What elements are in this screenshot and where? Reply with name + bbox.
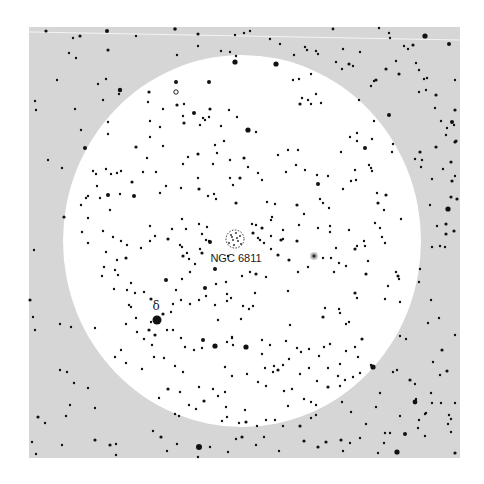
star-icon — [252, 305, 254, 307]
star-icon — [333, 271, 335, 273]
star-icon — [229, 177, 231, 179]
star-icon — [87, 242, 89, 244]
star-icon — [214, 144, 216, 146]
star-icon — [359, 437, 361, 439]
star-icon — [364, 245, 366, 247]
star-icon — [264, 367, 266, 369]
star-icon — [70, 326, 72, 328]
star-icon — [387, 285, 389, 287]
star-icon — [273, 61, 278, 66]
star-icon — [303, 398, 305, 400]
star-icon — [384, 67, 387, 70]
star-icon — [434, 93, 437, 96]
star-icon — [184, 346, 186, 348]
star-icon — [130, 180, 133, 183]
star-icon — [254, 292, 256, 294]
star-icon — [389, 37, 391, 39]
star-icon — [317, 53, 319, 55]
star-icon — [277, 154, 279, 156]
star-icon — [254, 272, 257, 275]
star-icon — [149, 120, 151, 122]
star-icon — [436, 225, 438, 227]
star-icon — [341, 68, 343, 70]
star-icon — [243, 32, 245, 34]
star-icon — [135, 317, 137, 319]
star-icon — [96, 185, 98, 187]
star-icon — [342, 188, 344, 190]
star-icon — [141, 368, 143, 370]
star-icon — [251, 231, 254, 234]
star-icon — [328, 207, 330, 209]
star-icon — [214, 304, 216, 306]
star-icon — [282, 425, 284, 427]
star-icon — [166, 387, 169, 390]
star-icon — [360, 337, 363, 340]
star-icon — [374, 222, 376, 224]
star-icon — [287, 258, 290, 261]
star-icon — [423, 78, 425, 80]
star-icon — [217, 319, 219, 321]
star-icon — [320, 102, 322, 104]
star-icon — [255, 444, 257, 446]
star-icon — [329, 231, 331, 233]
star-icon — [288, 358, 290, 360]
star-icon — [181, 246, 183, 248]
star-icon — [298, 224, 300, 226]
star-icon — [175, 289, 177, 291]
variable-star-core-icon — [312, 254, 316, 258]
star-icon — [134, 292, 136, 294]
star-icon — [376, 192, 378, 194]
star-icon — [182, 163, 184, 165]
star-icon — [453, 140, 456, 143]
star-icon — [196, 32, 199, 35]
star-icon — [338, 308, 340, 310]
star-icon — [439, 374, 441, 376]
star-icon — [356, 245, 358, 247]
star-icon — [217, 395, 219, 397]
star-icon — [260, 226, 263, 229]
cluster-member-star-icon — [233, 244, 235, 246]
star-icon — [391, 151, 393, 153]
star-icon — [208, 116, 210, 118]
star-icon — [182, 121, 185, 124]
star-icon — [368, 164, 370, 166]
star-icon — [278, 450, 280, 452]
star-icon — [34, 100, 36, 102]
star-icon — [119, 193, 121, 195]
star-icon — [195, 408, 197, 410]
star-icon — [170, 311, 172, 313]
star-icon — [229, 51, 231, 53]
star-icon — [180, 299, 182, 301]
star-icon — [176, 54, 178, 56]
star-icon — [315, 93, 317, 95]
star-icon — [440, 348, 443, 351]
star-icon — [287, 149, 289, 151]
star-icon — [415, 62, 417, 64]
star-icon — [212, 163, 214, 165]
star-icon — [432, 361, 434, 363]
star-icon — [270, 235, 272, 237]
star-icon — [188, 404, 190, 406]
star-icon — [142, 171, 144, 173]
star-icon — [418, 419, 420, 421]
star-icon — [353, 291, 356, 294]
star-icon — [194, 263, 196, 265]
star-icon — [315, 404, 317, 406]
star-icon — [118, 93, 120, 95]
star-icon — [295, 164, 297, 166]
star-icon — [116, 172, 118, 174]
star-icon — [36, 415, 39, 418]
star-icon — [207, 80, 211, 84]
star-icon — [340, 151, 342, 153]
star-icon — [185, 228, 187, 230]
star-icon — [319, 198, 321, 200]
star-icon — [377, 452, 379, 454]
star-icon — [130, 306, 132, 308]
star-icon — [251, 223, 253, 225]
star-icon — [418, 150, 421, 153]
star-icon — [80, 129, 82, 131]
star-icon — [306, 49, 308, 51]
star-icon — [112, 236, 114, 238]
star-icon — [439, 245, 441, 247]
star-icon — [304, 169, 306, 171]
